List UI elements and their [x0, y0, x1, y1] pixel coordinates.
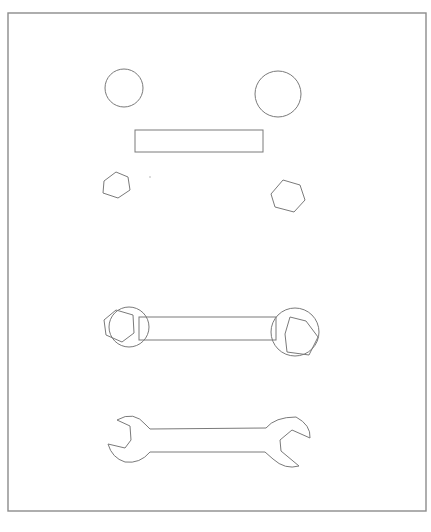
dot-mark — [149, 176, 151, 178]
drawing-frame — [8, 13, 426, 511]
wrench-diagram — [0, 0, 431, 532]
